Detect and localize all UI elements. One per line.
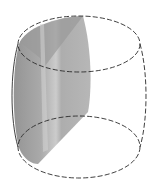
barrel-diagram — [0, 0, 153, 185]
right-side-outline — [140, 44, 146, 147]
